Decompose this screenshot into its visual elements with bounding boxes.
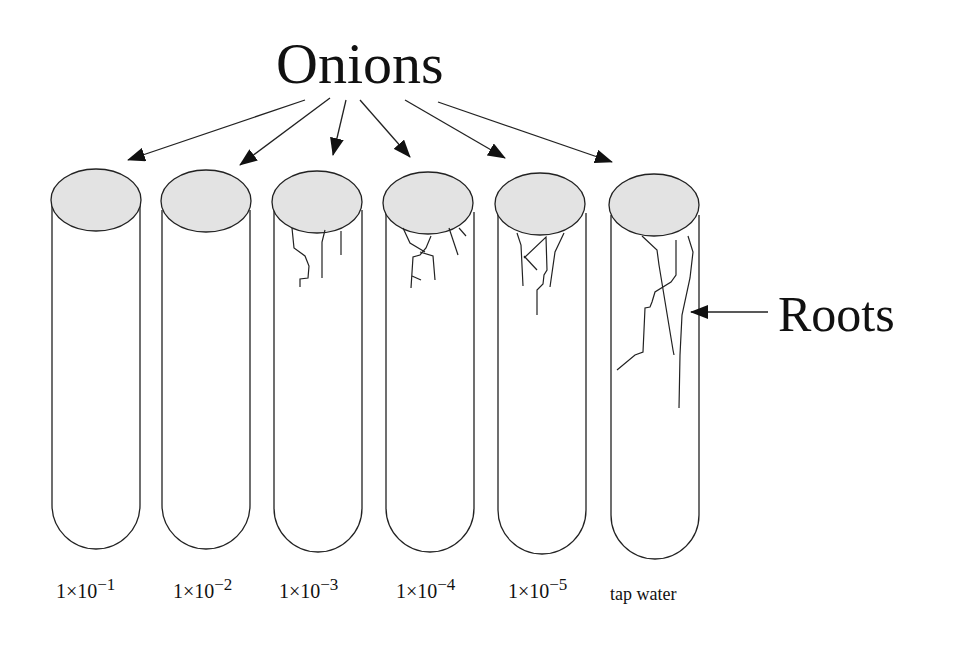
tube-5-label: 1×10−5 xyxy=(508,580,567,603)
roots-label: Roots xyxy=(778,285,895,343)
onion-arrows xyxy=(128,98,612,165)
onion-1 xyxy=(51,169,141,231)
onion-2 xyxy=(161,170,251,232)
arrow-tube-2 xyxy=(240,98,330,165)
test-tube-3 xyxy=(272,171,362,552)
tube-3-label: 1×10−3 xyxy=(279,580,338,603)
arrow-tube-4 xyxy=(360,100,410,157)
onion-5 xyxy=(495,173,585,235)
onion-6 xyxy=(609,174,699,236)
tube-4-label: 1×10−4 xyxy=(396,580,455,603)
arrow-tube-1 xyxy=(128,100,305,160)
tube-2-label: 1×10−2 xyxy=(173,580,232,603)
test-tube-2 xyxy=(161,170,251,549)
test-tube-1 xyxy=(51,169,141,549)
tube-1-label: 1×10−1 xyxy=(56,580,115,603)
tube-6-label: tap water xyxy=(610,584,676,605)
onion-root-diagram: Onions Roots 1×10−1 1×10−2 1×10−3 1×10−4… xyxy=(0,0,970,645)
onions-title: Onions xyxy=(276,30,444,97)
arrow-tube-6 xyxy=(438,102,612,162)
test-tube-6 xyxy=(609,174,699,559)
test-tube-5 xyxy=(495,173,586,554)
onion-4 xyxy=(383,172,473,234)
onion-3 xyxy=(272,171,362,233)
arrow-tube-3 xyxy=(333,100,346,155)
arrow-tube-5 xyxy=(405,100,505,158)
test-tube-4 xyxy=(383,172,474,552)
